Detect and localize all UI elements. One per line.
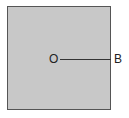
square-shape	[7, 6, 111, 110]
point-o-label: O	[49, 53, 58, 65]
segment-ob	[60, 59, 111, 60]
point-b-label: B	[114, 53, 122, 65]
